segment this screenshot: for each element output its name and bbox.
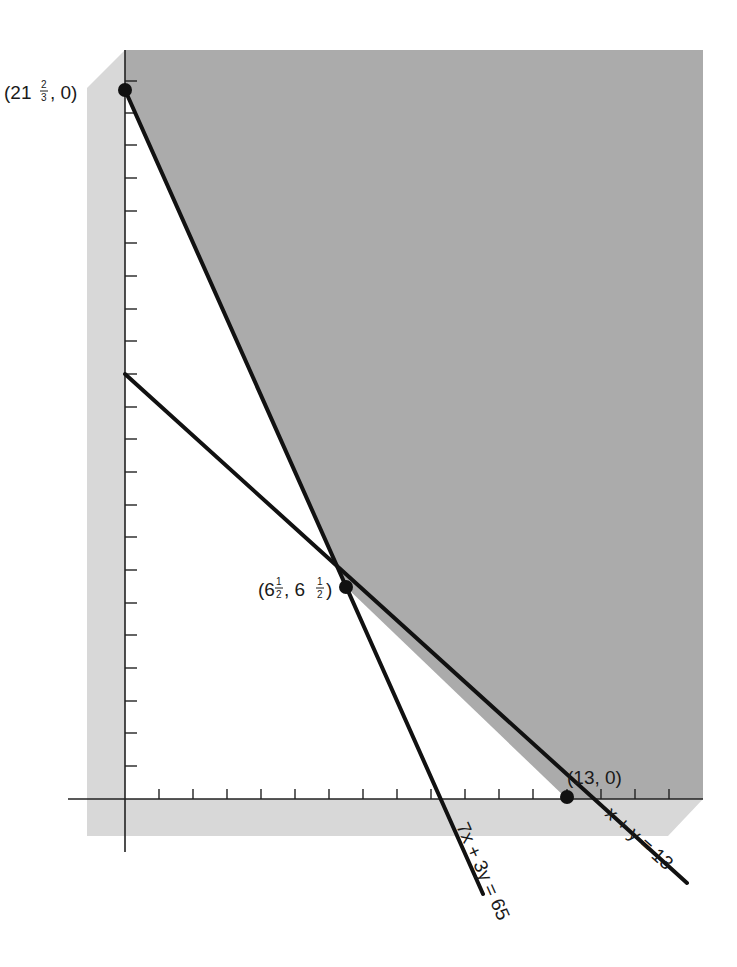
label-x-intercept: (13, 0): [567, 767, 622, 788]
svg-text:1: 1: [276, 576, 282, 587]
frame-shade-left: [87, 50, 125, 836]
svg-text:2: 2: [317, 589, 323, 600]
svg-text:, 6: , 6: [284, 579, 305, 600]
lp-diagram: (21 2 3 , 0) (6 1 2 , 6 1 2 ) (13, 0) 7x…: [0, 0, 737, 967]
svg-text:2: 2: [41, 79, 47, 90]
svg-text:(6: (6: [258, 579, 275, 600]
feasible-region: [125, 50, 703, 799]
label-intersection: (6 1 2 , 6 1 2 ): [258, 576, 332, 600]
svg-text:): ): [326, 579, 332, 600]
svg-text:3: 3: [41, 92, 47, 103]
svg-text:(21: (21: [4, 82, 31, 103]
y-axis-ticks: [125, 81, 137, 766]
svg-text:2: 2: [276, 589, 282, 600]
point-x-intercept: [560, 790, 574, 804]
point-intersection: [339, 580, 353, 594]
point-top-vertex: [118, 83, 132, 97]
svg-text:, 0): , 0): [50, 82, 77, 103]
label-top-vertex: (21 2 3 , 0): [4, 79, 77, 103]
svg-text:1: 1: [317, 576, 323, 587]
